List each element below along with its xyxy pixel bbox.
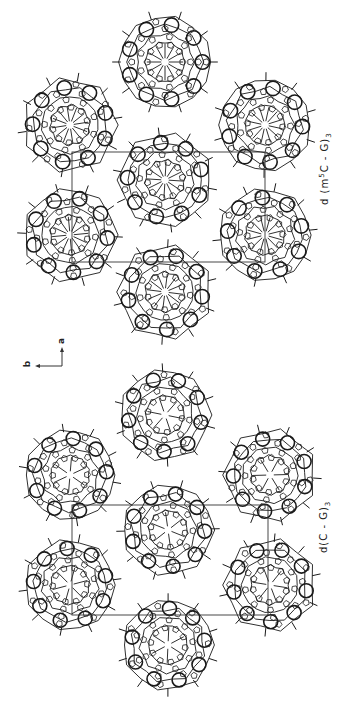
panel-label-bottom: d(C - G)3 bbox=[318, 501, 332, 553]
dna-helix-cluster bbox=[220, 534, 321, 637]
label-text-prefix: d(C - G) bbox=[318, 506, 329, 553]
label-subscript: 3 bbox=[324, 501, 332, 506]
dna-helix-cluster bbox=[19, 534, 122, 635]
panel-bottom-CG: d(C - G)3 bbox=[0, 0, 357, 355]
dna-helix-cluster bbox=[116, 480, 219, 579]
dna-helix-cluster bbox=[218, 425, 321, 525]
dna-helix-cluster bbox=[19, 424, 121, 526]
crystal-packing-diagram-bottom bbox=[0, 0, 357, 711]
dna-helix-cluster bbox=[115, 363, 215, 466]
dna-helix-cluster bbox=[119, 593, 217, 696]
